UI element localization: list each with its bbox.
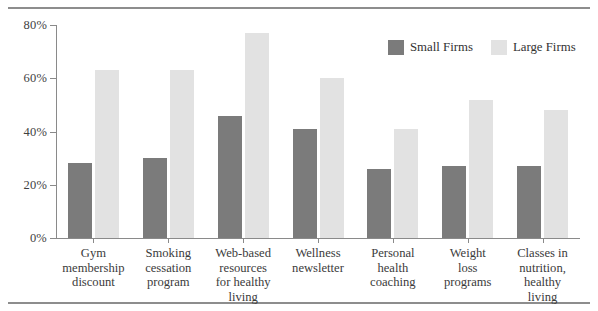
bar <box>218 116 242 238</box>
x-axis-category-label: Personalhealthcoaching <box>355 246 430 290</box>
bar-groups <box>56 25 580 238</box>
x-axis-category-labels: GymmembershipdiscountSmokingcessationpro… <box>56 246 580 304</box>
x-axis-category-label: Wellnessnewsletter <box>281 246 356 275</box>
x-axis-category-label: Web-basedresourcesfor healthyliving <box>206 246 281 304</box>
bar <box>544 110 568 238</box>
category-label-line: resources <box>206 261 281 276</box>
category-label-line: Smoking <box>131 246 206 261</box>
bar <box>170 70 194 238</box>
category-label-line: living <box>206 290 281 305</box>
bar-group <box>442 25 493 238</box>
bar-group <box>218 25 269 238</box>
x-axis-category-label: Gymmembershipdiscount <box>56 246 131 290</box>
category-label-line: coaching <box>355 275 430 290</box>
x-tick-mark <box>468 238 469 243</box>
x-tick-mark <box>93 238 94 243</box>
chart-figure: Small FirmsLarge Firms 0%20%40%60%80% Gy… <box>0 0 598 311</box>
bar-group <box>68 25 119 238</box>
category-label-line: Personal <box>355 246 430 261</box>
y-tick-mark <box>50 238 56 239</box>
category-label-line: living <box>505 290 580 305</box>
category-label-line: programs <box>430 275 505 290</box>
x-tick-mark <box>543 238 544 243</box>
category-label-line: Gym <box>56 246 131 261</box>
bar-group <box>293 25 344 238</box>
category-label-line: program <box>131 275 206 290</box>
category-label-line: Classes in <box>505 246 580 261</box>
plot-area: 0%20%40%60%80% <box>56 25 580 238</box>
bar <box>293 129 317 238</box>
bar <box>394 129 418 238</box>
category-label-line: Web-based <box>206 246 281 261</box>
bar <box>245 33 269 238</box>
bar <box>68 163 92 238</box>
category-label-line: for healthy <box>206 275 281 290</box>
category-label-line: membership <box>56 261 131 276</box>
category-label-line: discount <box>56 275 131 290</box>
x-tick-mark <box>243 238 244 243</box>
bar-group <box>143 25 194 238</box>
bar <box>442 166 466 238</box>
y-tick-label: 80% <box>23 18 47 33</box>
bar <box>143 158 167 238</box>
x-tick-mark <box>393 238 394 243</box>
figure-top-rule <box>8 7 590 9</box>
y-tick-label: 60% <box>23 71 47 86</box>
category-label-line: healthy <box>505 275 580 290</box>
bar <box>320 78 344 238</box>
x-tick-mark <box>318 238 319 243</box>
bar <box>517 166 541 238</box>
category-label-line: Weight <box>430 246 505 261</box>
x-axis-category-label: Classes innutrition,healthyliving <box>505 246 580 304</box>
bar <box>367 169 391 238</box>
x-axis-category-label: Smokingcessationprogram <box>131 246 206 290</box>
y-tick-label: 20% <box>23 177 47 192</box>
category-label-line: loss <box>430 261 505 276</box>
x-tick-mark <box>168 238 169 243</box>
x-axis-category-label: Weightlossprograms <box>430 246 505 290</box>
category-label-line: Wellness <box>281 246 356 261</box>
bar <box>469 100 493 238</box>
category-label-line: newsletter <box>281 261 356 276</box>
bar <box>95 70 119 238</box>
category-label-line: health <box>355 261 430 276</box>
category-label-line: cessation <box>131 261 206 276</box>
y-tick-label: 0% <box>30 231 47 246</box>
category-label-line: nutrition, <box>505 261 580 276</box>
bar-group <box>367 25 418 238</box>
bar-group <box>517 25 568 238</box>
y-tick-label: 40% <box>23 124 47 139</box>
